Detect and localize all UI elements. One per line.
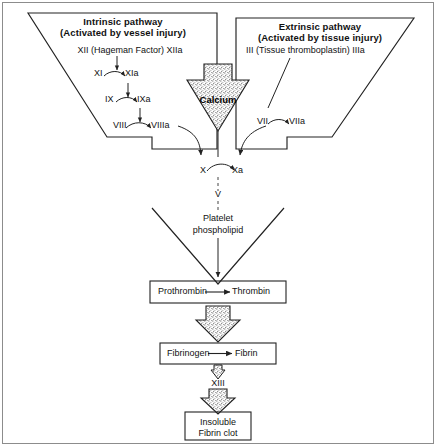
xi-conversion-arc xyxy=(104,72,125,77)
fibrinogen-label: Fibrinogen xyxy=(167,348,210,358)
calcium-label: Calcium xyxy=(178,95,258,106)
platelet-phospholipid-line2: phospholipid xyxy=(158,225,278,235)
factor-row-xii: XII (Hageman Factor) XIIa xyxy=(40,45,220,55)
factor-xi-active: XIa xyxy=(125,68,139,78)
factor-viii-active: VIIIa xyxy=(151,120,170,130)
intrinsic-heading-line2: (Activated by vessel injury) xyxy=(43,28,203,39)
factor-v-label: V xyxy=(203,189,233,199)
prothrombin-label: Prothrombin xyxy=(158,286,207,296)
factor-ix-inactive: IX xyxy=(105,94,114,104)
fibrin-label: Fibrin xyxy=(235,348,258,358)
intrinsic-to-x-arrow xyxy=(178,126,201,155)
extrinsic-heading-line2: (Activated by tissue injury) xyxy=(220,33,420,44)
thrombin-label: Thrombin xyxy=(232,286,270,296)
factor-vii-inactive: VII xyxy=(257,116,268,126)
factor-xiii-label: XIII xyxy=(198,378,238,388)
ix-conversion-arc xyxy=(116,98,137,103)
extrinsic-to-x-arrow xyxy=(240,126,266,155)
vii-conversion-arc xyxy=(268,120,289,125)
insoluble-clot-line2: Fibrin clot xyxy=(178,428,258,438)
factor-x-inactive: X xyxy=(200,165,206,175)
viii-conversion-arc xyxy=(126,123,151,128)
fibrin-to-xiii-arrow xyxy=(211,365,225,379)
x-to-xa-arrow xyxy=(207,164,234,171)
platelet-phospholipid-line1: Platelet xyxy=(158,213,278,223)
insoluble-clot-line1: Insoluble xyxy=(178,417,258,427)
factor-row-iii: III (Tissue thromboplastin) IIIa xyxy=(246,45,365,55)
iii-to-vii-line xyxy=(268,58,290,108)
factor-vii-active: VIIa xyxy=(289,116,305,126)
factor-x-active: Xa xyxy=(232,165,243,175)
xiii-block-arrow xyxy=(201,389,235,414)
factor-xi-inactive: XI xyxy=(94,68,103,78)
factor-viii-inactive: VIII xyxy=(113,120,127,130)
thrombin-block-arrow xyxy=(196,306,240,342)
factor-ix-active: IXa xyxy=(137,94,151,104)
